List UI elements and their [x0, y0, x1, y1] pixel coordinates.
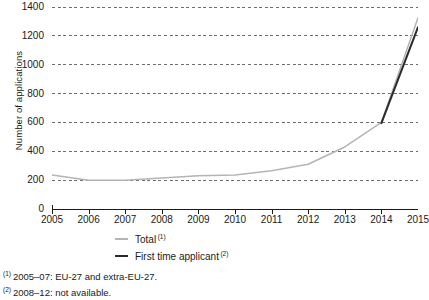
x-tick-label: 2006 — [77, 214, 99, 226]
legend-footnote-mark: (1) — [158, 233, 166, 240]
plot-area — [52, 7, 418, 209]
x-tick-label: 2008 — [151, 214, 173, 226]
legend-swatch-first-time-applicant — [115, 255, 128, 257]
y-tick-label: 0 — [38, 204, 44, 214]
x-tick-label: 2015 — [407, 214, 429, 226]
x-tick-label: 2013 — [334, 214, 356, 226]
y-tick-label: 1400 — [22, 2, 44, 12]
x-tick-label: 2014 — [370, 214, 392, 226]
axis-lines — [52, 205, 418, 214]
legend-label-first-time-applicant: First time applicant(2) — [135, 248, 228, 263]
y-tick-label: 1200 — [22, 31, 44, 41]
legend-footnote-mark: (2) — [220, 250, 228, 257]
data-series — [52, 18, 418, 180]
legend-item-total[interactable]: Total(1) — [0, 232, 420, 246]
x-tick-label: 2007 — [114, 214, 136, 226]
footnote-2: (2)2008–12: not available. — [3, 284, 417, 299]
footnotes: (1)2005–07: EU-27 and extra-EU-27. (2)20… — [3, 268, 417, 300]
x-tick-label: 2012 — [297, 214, 319, 226]
footnote-mark: (1) — [3, 270, 11, 277]
plot-svg — [52, 7, 418, 219]
chart-legend: Total(1) First time applicant(2) — [0, 232, 420, 268]
y-tick-label: 200 — [27, 175, 44, 185]
x-axis-tick-labels: 2005200620072008200920102011201220132014… — [52, 214, 418, 228]
y-tick-label: 1000 — [22, 60, 44, 70]
legend-item-first-time-applicant[interactable]: First time applicant(2) — [0, 249, 420, 263]
y-tick-label: 400 — [27, 146, 44, 156]
x-tick-label: 2005 — [41, 214, 63, 226]
y-axis-tick-labels: 0200400600800100012001400 — [0, 0, 48, 220]
footnote-1: (1)2005–07: EU-27 and extra-EU-27. — [3, 268, 417, 283]
legend-swatch-total — [115, 238, 128, 240]
x-tick-label: 2011 — [261, 214, 283, 226]
x-tick-label: 2009 — [187, 214, 209, 226]
footnote-mark: (2) — [3, 286, 11, 293]
y-tick-label: 600 — [27, 117, 44, 127]
y-tick-label: 800 — [27, 89, 44, 99]
legend-label-total: Total(1) — [135, 231, 166, 246]
x-tick-label: 2010 — [224, 214, 246, 226]
gridlines — [52, 7, 418, 180]
